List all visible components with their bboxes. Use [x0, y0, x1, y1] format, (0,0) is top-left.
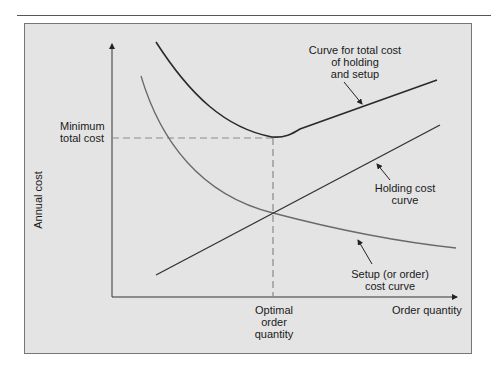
- total-label-line3: and setup: [290, 68, 420, 80]
- total-cost-arrow: [344, 82, 362, 104]
- optimal-label-line3: quantity: [249, 328, 299, 340]
- total-label-line1: Curve for total cost: [290, 44, 420, 56]
- holding-label-line2: curve: [360, 194, 450, 206]
- optimal-label-line2: order: [249, 316, 299, 328]
- setup-cost-curve: [141, 76, 456, 248]
- min-cost-label: Minimum total cost: [60, 120, 105, 144]
- optimal-label-line1: Optimal: [249, 304, 299, 316]
- total-label-line2: of holding: [290, 56, 420, 68]
- setup-cost-label: Setup (or order) cost curve: [335, 268, 445, 292]
- setup-cost-arrow: [358, 240, 372, 264]
- y-axis-label: Annual cost: [32, 171, 44, 228]
- min-cost-label-line1: Minimum: [60, 120, 105, 132]
- setup-label-line1: Setup (or order): [335, 268, 445, 280]
- total-cost-label: Curve for total cost of holding and setu…: [290, 44, 420, 80]
- x-axis-label: Order quantity: [392, 304, 462, 316]
- holding-label-line1: Holding cost: [360, 182, 450, 194]
- holding-cost-arrow: [377, 164, 390, 180]
- optimal-qty-label: Optimal order quantity: [249, 304, 299, 340]
- setup-label-line2: cost curve: [335, 280, 445, 292]
- holding-cost-label: Holding cost curve: [360, 182, 450, 206]
- min-cost-label-line2: total cost: [60, 132, 105, 144]
